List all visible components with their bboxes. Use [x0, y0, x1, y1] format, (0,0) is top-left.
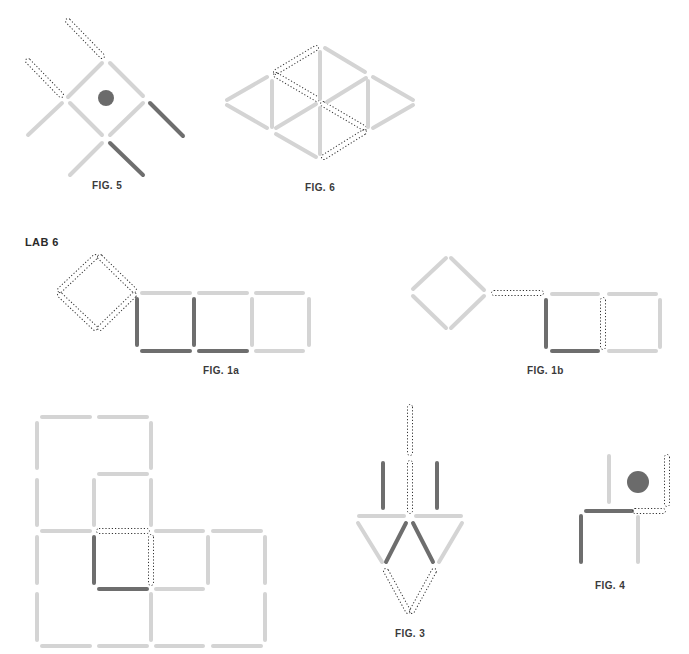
- matchstick-light: [276, 104, 316, 128]
- matchstick-dashed: [408, 405, 413, 456]
- matchstick-dashed: [383, 568, 412, 615]
- matchstick-light: [28, 103, 62, 135]
- matchstick-light: [373, 105, 413, 128]
- figure-fig2: [37, 417, 265, 646]
- matchstick-dashed: [633, 509, 666, 514]
- matchstick-light: [451, 258, 484, 290]
- matchstick-light: [70, 143, 102, 175]
- matchstick-dashed: [273, 72, 321, 103]
- matchstick-dashed: [96, 253, 137, 293]
- matchstick-dashed: [273, 45, 320, 76]
- matchstick-light: [227, 77, 267, 100]
- matchstick-dashed: [320, 101, 368, 132]
- matchstick-light: [70, 103, 102, 135]
- matchstick-dashed: [149, 535, 154, 586]
- matchstick-light: [358, 523, 382, 562]
- matchstick-dashed: [56, 291, 98, 331]
- matchstick-light: [439, 523, 462, 562]
- diagram-canvas: LAB 6 FIG. 5FIG. 6FIG. 1aFIG. 1bFIG. 3FI…: [0, 0, 689, 654]
- matchstick-dark: [150, 103, 183, 136]
- figure-label-fig1a: FIG. 1a: [203, 365, 239, 377]
- figure-fig4: [581, 455, 670, 563]
- matchstick-light: [325, 48, 365, 72]
- matchstick-dark: [110, 143, 143, 175]
- figure-fig1b: [413, 258, 660, 351]
- matchstick-dashed: [97, 529, 150, 534]
- figure-label-fig3: FIG. 3: [395, 628, 425, 640]
- matchstick-dashed: [409, 568, 438, 615]
- figure-fig5: [24, 17, 183, 175]
- matchstick-dashed: [321, 129, 368, 161]
- section-label-lab-6: LAB 6: [25, 236, 59, 248]
- matchstick-dashed: [24, 57, 64, 98]
- matchstick-figures: [0, 0, 689, 654]
- figure-label-fig5: FIG. 5: [92, 180, 122, 192]
- figure-fig3: [358, 405, 462, 615]
- matchstick-dashed: [601, 298, 606, 350]
- figure-label-fig1b: FIG. 1b: [527, 365, 564, 377]
- matchstick-dashed: [56, 253, 98, 293]
- matchstick-light: [227, 105, 267, 128]
- matchstick-dashed: [408, 461, 413, 514]
- figure-fig1a: [56, 253, 309, 351]
- matchstick-dashed: [64, 17, 105, 59]
- matchstick-dark: [413, 523, 433, 562]
- matchstick-light: [276, 134, 316, 157]
- dot-marker: [627, 471, 649, 493]
- figure-fig6: [227, 45, 413, 161]
- matchstick-light: [68, 63, 102, 97]
- matchstick-light: [373, 77, 413, 100]
- matchstick-light: [110, 63, 143, 96]
- dot-marker: [98, 90, 114, 106]
- matchstick-dashed: [665, 455, 670, 507]
- matchstick-light: [327, 78, 366, 102]
- matchstick-light: [413, 258, 446, 289]
- matchstick-light: [451, 296, 484, 328]
- figure-label-fig4: FIG. 4: [595, 580, 625, 592]
- matchstick-light: [413, 296, 446, 328]
- matchstick-dashed: [96, 291, 137, 331]
- matchstick-dashed: [492, 291, 544, 296]
- figure-label-fig6: FIG. 6: [305, 182, 335, 194]
- matchstick-light: [110, 103, 143, 135]
- matchstick-dark: [386, 523, 406, 562]
